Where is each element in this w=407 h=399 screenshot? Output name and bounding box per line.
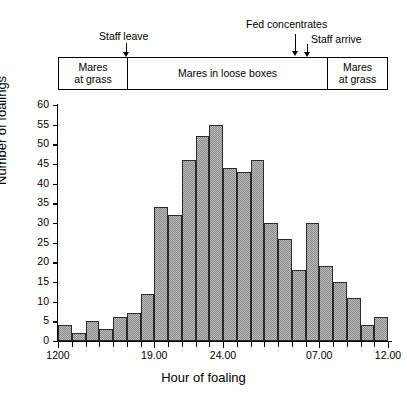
x-axis-tick	[374, 341, 375, 347]
x-axis-tick: 07.00	[319, 341, 320, 348]
histogram-bar	[182, 160, 196, 341]
x-axis-tick-label: 24.00	[210, 349, 236, 361]
annotation-label-staff-leave: Staff leave	[99, 31, 148, 42]
x-axis-tick	[278, 341, 279, 347]
band-segment-line1: Mares in loose boxes	[178, 68, 277, 80]
y-axis-tick-label: 30	[37, 216, 49, 228]
management-band: Mares at grass Mares in loose boxes Mare…	[58, 57, 388, 90]
y-axis-tick-label: 35	[37, 196, 49, 208]
figure: Staff leave Fed concentrates Staff arriv…	[0, 0, 407, 399]
x-axis-tick	[347, 341, 348, 347]
x-axis-tick	[99, 341, 100, 347]
y-axis-tick-label: 50	[37, 137, 49, 149]
x-axis-tick	[86, 341, 87, 347]
x-axis-tick	[127, 341, 128, 347]
histogram-bar	[196, 136, 210, 341]
y-axis-tick: 25	[53, 243, 58, 244]
histogram-bar	[58, 325, 72, 341]
x-axis-line	[57, 341, 392, 342]
x-axis-tick-label: 12.00	[375, 349, 401, 361]
histogram-bar	[306, 223, 320, 341]
x-axis-tick: 19.00	[154, 341, 155, 348]
y-axis-tick: 60	[53, 105, 58, 106]
y-axis-label: Number of foalings	[0, 76, 9, 185]
histogram-bar	[319, 266, 333, 341]
histogram-bar	[154, 207, 168, 341]
histogram-bar	[333, 282, 347, 341]
y-axis-tick-label: 10	[37, 295, 49, 307]
y-axis-tick: 20	[53, 262, 58, 263]
histogram-bar	[127, 313, 141, 341]
x-axis-tick	[361, 341, 362, 347]
x-axis-tick	[306, 341, 307, 347]
histogram-bar	[374, 317, 388, 341]
band-segment-line1: Mares	[339, 62, 376, 74]
x-axis-label: Hour of foaling	[0, 370, 407, 385]
x-axis-tick	[113, 341, 114, 347]
y-axis-tick: 15	[53, 282, 58, 283]
y-axis-tick-label: 25	[37, 236, 49, 248]
x-axis-tick	[292, 341, 293, 347]
y-axis-tick-label: 40	[37, 177, 49, 189]
x-axis-tick	[196, 341, 197, 347]
y-axis-tick: 10	[53, 302, 58, 303]
y-axis-tick: 40	[53, 184, 58, 185]
histogram-bar	[264, 223, 278, 341]
x-axis-tick	[251, 341, 252, 347]
y-axis-tick: 50	[53, 144, 58, 145]
x-axis-tick-label: 19.00	[141, 349, 167, 361]
annotation-label-staff-arrive: Staff arrive	[311, 34, 362, 45]
band-segment-line2: at grass	[339, 74, 376, 86]
x-axis-tick	[209, 341, 210, 347]
y-axis-tick-label: 5	[43, 314, 49, 326]
y-axis-tick-label: 60	[37, 98, 49, 110]
histogram-bar	[223, 168, 237, 341]
y-axis-tick-label: 20	[37, 255, 49, 267]
y-axis-tick-label: 15	[37, 275, 49, 287]
histogram-bar	[168, 215, 182, 341]
x-axis-tick	[182, 341, 183, 347]
histogram-bar	[209, 125, 223, 341]
band-segment-mares-at-grass-right: Mares at grass	[327, 58, 387, 89]
y-axis-tick: 55	[53, 125, 58, 126]
histogram-bar	[99, 329, 113, 341]
histogram-bar	[113, 317, 127, 341]
x-axis-tick	[141, 341, 142, 347]
histogram-bars	[58, 105, 388, 341]
band-segment-line2: at grass	[74, 74, 111, 86]
x-axis-tick	[168, 341, 169, 347]
histogram-bar	[72, 333, 86, 341]
histogram-bar	[86, 321, 100, 341]
x-axis-tick-label: 07.00	[306, 349, 332, 361]
histogram-bar	[278, 239, 292, 341]
y-axis-tick: 45	[53, 164, 58, 165]
annotation-label-fed-concentrates: Fed concentrates	[246, 19, 327, 30]
y-axis-tick: 5	[53, 321, 58, 322]
y-axis-tick-label: 45	[37, 157, 49, 169]
histogram-bar	[237, 172, 251, 341]
histogram-bar	[251, 160, 265, 341]
histogram-bar	[347, 298, 361, 341]
x-axis-tick: 12.00	[388, 341, 389, 348]
band-segment-mares-in-loose-boxes: Mares in loose boxes	[127, 58, 327, 89]
x-axis-tick	[237, 341, 238, 347]
y-axis-tick: 30	[53, 223, 58, 224]
x-axis-tick: 1200	[58, 341, 59, 348]
band-segment-line1: Mares	[74, 62, 111, 74]
x-axis-tick	[333, 341, 334, 347]
y-axis-tick-label: 55	[37, 118, 49, 130]
histogram-bar	[292, 270, 306, 341]
y-axis-tick: 35	[53, 203, 58, 204]
plot-area: 051015202530354045505560 120019.0024.000…	[58, 105, 388, 341]
histogram-bar	[361, 325, 375, 341]
histogram-bar	[141, 294, 155, 341]
y-axis-tick-label: 0	[43, 334, 49, 346]
band-segment-mares-at-grass-left: Mares at grass	[59, 58, 127, 89]
x-axis-tick: 24.00	[223, 341, 224, 348]
x-axis-tick	[264, 341, 265, 347]
x-axis-tick-label: 1200	[46, 349, 69, 361]
x-axis-tick	[72, 341, 73, 347]
